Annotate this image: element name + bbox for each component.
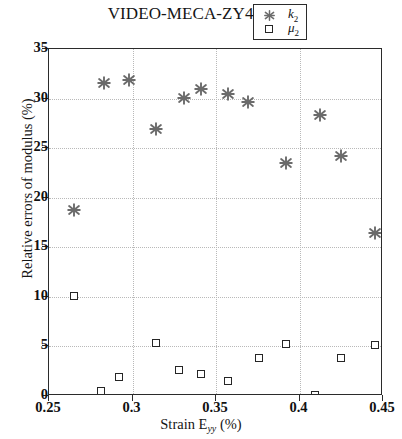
x-tick-label: 0.4	[269, 399, 329, 416]
data-point-k2	[149, 123, 162, 136]
data-point-mu2	[255, 354, 263, 362]
x-tick-label: 0.3	[102, 399, 162, 416]
data-point-k2	[368, 227, 381, 240]
data-point-mu2	[97, 387, 105, 394]
data-point-mu2	[175, 366, 183, 374]
x-axis-label-text: Strain E	[160, 416, 207, 432]
square-icon	[259, 22, 279, 36]
data-point-k2	[68, 203, 81, 216]
data-point-k2	[313, 109, 326, 122]
data-point-k2	[221, 87, 234, 100]
data-points-layer	[49, 49, 381, 394]
data-point-k2	[335, 150, 348, 163]
data-point-mu2	[152, 339, 160, 347]
data-point-k2	[98, 76, 111, 89]
chart-figure: VIDEO-MECA-ZY4 N°81 051015202530350.250.…	[0, 0, 402, 439]
data-point-mu2	[70, 292, 78, 300]
data-point-mu2	[197, 370, 205, 378]
data-point-mu2	[311, 391, 319, 394]
data-point-k2	[178, 91, 191, 104]
plot-area	[48, 48, 382, 395]
x-axis-title: Strain Eyy (%)	[0, 416, 402, 434]
chart-legend: k2 μ2	[253, 4, 307, 40]
data-point-mu2	[282, 340, 290, 348]
data-point-mu2	[371, 341, 379, 349]
data-point-k2	[194, 82, 207, 95]
asterisk-icon	[259, 8, 279, 22]
x-axis-label-subscript: yy	[207, 423, 216, 434]
x-tick-label: 0.25	[18, 399, 78, 416]
x-tick-label: 0.45	[352, 399, 402, 416]
x-axis-label-unit: (%)	[220, 416, 242, 432]
x-tick-label: 0.35	[185, 399, 245, 416]
legend-label-mu2: μ2	[279, 21, 299, 38]
data-point-k2	[123, 73, 136, 86]
data-point-mu2	[224, 377, 232, 385]
data-point-k2	[241, 95, 254, 108]
legend-item-mu2: μ2	[259, 22, 299, 36]
data-point-mu2	[115, 373, 123, 381]
data-point-mu2	[337, 354, 345, 362]
data-point-k2	[280, 157, 293, 170]
chart-title: VIDEO-MECA-ZY4 N°81	[0, 4, 402, 24]
y-axis-title: Relative errors of modulus (%)	[19, 19, 36, 359]
